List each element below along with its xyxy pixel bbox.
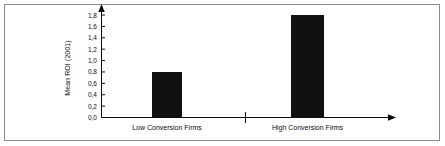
y-axis-title: Mean ROI (2001) <box>62 18 74 118</box>
chart-figure: Mean ROI (2001) 1,81,61,41,21,00,80,60,4… <box>0 0 445 146</box>
y-tick-label: 0,4 <box>81 91 97 98</box>
bar <box>291 15 324 118</box>
x-category-label: Low Conversion Firms <box>107 123 227 132</box>
y-tick-label: 0,0 <box>81 114 97 121</box>
y-tick-label: 1,8 <box>81 12 97 19</box>
y-tick-label: 1,2 <box>81 46 97 53</box>
y-tick-labels: 1,81,61,41,21,00,80,60,40,20,0 <box>79 0 97 146</box>
y-tick-marks <box>102 15 106 118</box>
y-axis-arrow-icon <box>98 4 104 12</box>
y-tick-label: 1,4 <box>81 34 97 41</box>
y-tick-label: 0,8 <box>81 68 97 75</box>
y-tick-label: 1,6 <box>81 23 97 30</box>
x-axis-arrow-icon <box>388 114 396 120</box>
bar <box>152 72 182 118</box>
x-category-label: High Conversion Firms <box>248 123 368 132</box>
y-tick-label: 1,0 <box>81 57 97 64</box>
y-tick-label: 0,6 <box>81 80 97 87</box>
y-tick-label: 0,2 <box>81 103 97 110</box>
